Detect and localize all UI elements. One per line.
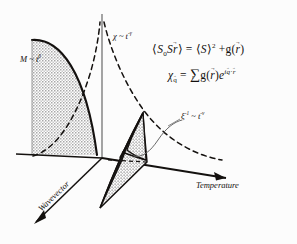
eq1-g-open: g( (226, 43, 236, 55)
correlation-label-leader (168, 119, 180, 126)
eq2-chi-sub-q: q (173, 76, 177, 84)
eq1-bracket-close: ⟩ (178, 43, 183, 55)
equation-line-1: ⟨S0Sr⟩ = ⟨S⟩2 +g(r) (152, 42, 244, 58)
wavevector-axis-line (36, 158, 102, 222)
eq1-equals: = (186, 43, 193, 55)
eq2-sum-subscript-r: r (192, 73, 195, 80)
equation-line-2: χq = ∑ r g(r)eiq·r (168, 66, 236, 84)
eq2-equals: = (180, 69, 187, 81)
eq2-exp-r: r (233, 68, 236, 76)
susceptibility-label: χ ~ t-γ (113, 30, 132, 41)
eq2-g-vec: r (210, 69, 215, 81)
eq2-g-open: g( (200, 69, 210, 81)
correlation-length-label: ξ-1 ~ t-ν (181, 110, 204, 121)
eq1-g-close: ) (240, 43, 244, 55)
eq1-plus: + (219, 43, 226, 55)
eq2-exp-q: q (227, 68, 231, 76)
magnetization-label: M ~ tβ (20, 53, 41, 64)
wavevector-axis-arrowhead (34, 210, 46, 224)
temperature-axis-label: Temperature (196, 180, 239, 190)
eq1-sr-vec: r (173, 43, 178, 55)
eq1-g-vec: r (235, 43, 240, 55)
eq2-exponent: iq·r (224, 68, 236, 76)
critical-scaling-figure: M ~ tβ χ ~ t-γ ξ-1 ~ t-ν Temperature Wav… (0, 0, 297, 244)
eq1-rhs-power: 2 (212, 42, 216, 50)
